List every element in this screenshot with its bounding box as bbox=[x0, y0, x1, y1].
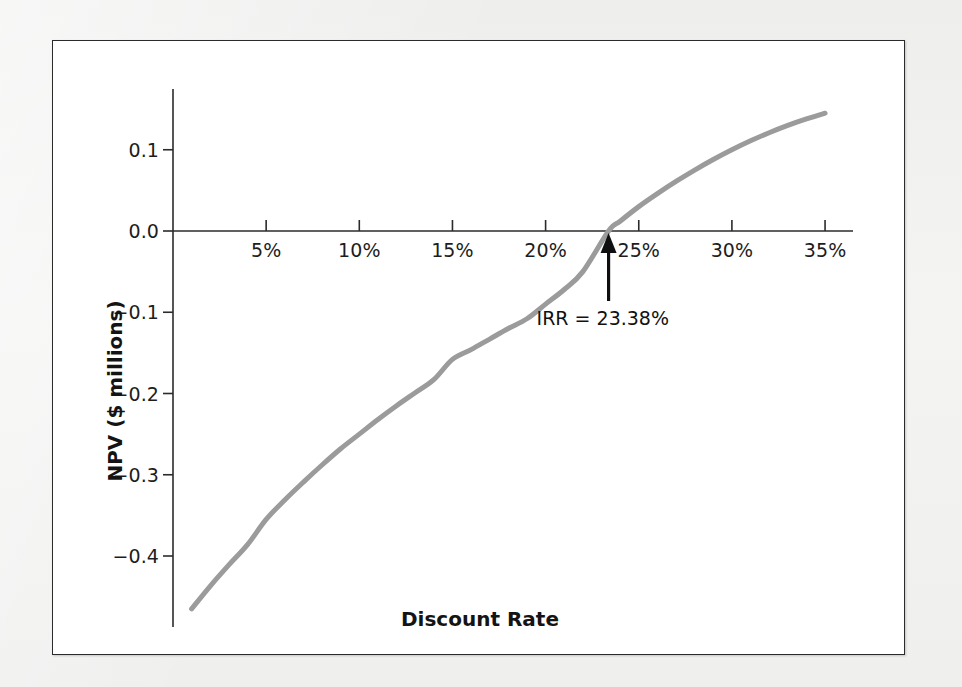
x-axis-tick-label: 20% bbox=[524, 239, 567, 261]
x-axis-tick-label: 25% bbox=[617, 239, 660, 261]
figure-frame: 0.10.0−0.1−0.2−0.3−0.4 5%10%15%20%25%30%… bbox=[52, 40, 905, 655]
x-axis-tick-label: 15% bbox=[431, 239, 474, 261]
npv-curve-line bbox=[192, 113, 825, 609]
x-axis-title: Discount Rate bbox=[401, 607, 559, 631]
y-axis-tick-label: −0.4 bbox=[99, 545, 159, 567]
axes-layer bbox=[173, 89, 853, 627]
irr-annotation-label: IRR = 23.38% bbox=[537, 307, 669, 329]
y-axis-tick-label: 0.0 bbox=[99, 220, 159, 242]
y-axis-tick-label: 0.1 bbox=[99, 139, 159, 161]
y-axis-title: NPV ($ millions) bbox=[103, 300, 127, 481]
x-axis-tick-label: 5% bbox=[251, 239, 281, 261]
axis-ticks-layer bbox=[163, 150, 825, 556]
npv-profile-plot bbox=[53, 41, 906, 656]
x-axis-tick-label: 30% bbox=[711, 239, 754, 261]
x-axis-tick-label: 35% bbox=[804, 239, 847, 261]
x-axis-tick-label: 10% bbox=[338, 239, 381, 261]
